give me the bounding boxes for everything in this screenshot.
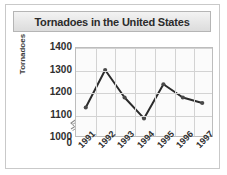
- x-tick-label: 1995: [155, 129, 176, 150]
- chart-figure: Tornadoes in the United States Tornadoes…: [5, 4, 220, 169]
- x-tick-label: 1992: [96, 129, 117, 150]
- x-axis-tick-labels: 1991199219931994199519961997: [6, 5, 227, 175]
- x-tick-label: 1991: [76, 129, 97, 150]
- x-tick-label: 1996: [174, 129, 195, 150]
- x-tick-label: 1993: [115, 129, 136, 150]
- x-tick-label: 1994: [135, 129, 156, 150]
- x-tick-label: 1997: [194, 129, 215, 150]
